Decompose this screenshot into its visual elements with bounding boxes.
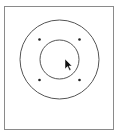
dot-top-left (38, 38, 41, 41)
diagram-canvas (0, 0, 119, 134)
mouse-pointer-icon (65, 59, 72, 71)
dot-top-right (78, 38, 81, 41)
dot-bottom-left (38, 79, 41, 82)
dot-bottom-right (78, 79, 81, 82)
outer-circle (20, 20, 99, 99)
inner-circle (40, 40, 79, 79)
